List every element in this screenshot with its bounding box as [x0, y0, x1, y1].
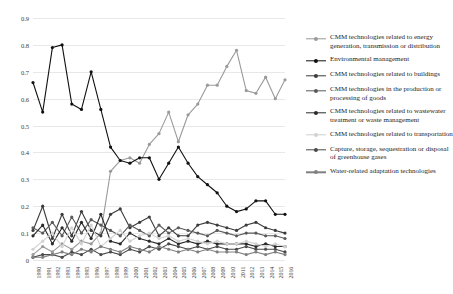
legend-label: CMM technologies related to buildings [330, 70, 440, 79]
series-point [60, 256, 63, 259]
series-point [245, 207, 248, 210]
series-point [80, 210, 83, 213]
x-axis-tick-label: 2005 [181, 267, 187, 279]
series-point [138, 156, 141, 159]
series-point [41, 223, 44, 226]
series-point [90, 229, 93, 232]
series-point [283, 78, 286, 81]
series-point [274, 234, 277, 237]
series-point [51, 237, 54, 240]
legend-label: CMM technologies related to energy gener… [330, 33, 453, 50]
series-point [177, 140, 180, 143]
legend-item[interactable]: Capture, storage, sequestration or dispo… [306, 145, 453, 162]
x-axis-tick-label: 2013 [259, 267, 265, 279]
series-point [90, 237, 93, 240]
legend-label: Environmental management [330, 55, 409, 64]
legend-item[interactable]: CMM technologies related to wastewater t… [306, 107, 453, 124]
series-line [33, 45, 285, 214]
legend-label: CMM technologies related to wastewater t… [330, 107, 453, 124]
series-point [119, 229, 122, 232]
series-point [254, 250, 257, 253]
series-point [216, 84, 219, 87]
chart-series [31, 205, 286, 240]
series-point [148, 240, 151, 243]
x-axis-tick-label: 2000 [133, 267, 139, 279]
series-point [196, 102, 199, 105]
x-axis-tick-label: 1996 [94, 267, 100, 279]
series-point [119, 234, 122, 237]
series-point [283, 213, 286, 216]
series-point [264, 199, 267, 202]
legend-item[interactable]: CMM technologies related to buildings [306, 70, 453, 80]
series-point [235, 229, 238, 232]
series-point [128, 162, 131, 165]
series-point [31, 234, 34, 237]
series-point [90, 242, 93, 245]
series-point [216, 245, 219, 248]
series-point [264, 253, 267, 256]
series-point [119, 207, 122, 210]
series-point [177, 250, 180, 253]
x-axis-tick-label: 1992 [55, 267, 61, 279]
legend-marker-icon [306, 168, 326, 177]
y-axis-tick-label: 0.4 [21, 149, 29, 156]
x-axis-tick-label: 2007 [201, 267, 207, 279]
series-point [109, 170, 112, 173]
legend-item[interactable]: CMM technologies in the production or pr… [306, 85, 453, 102]
series-point [157, 223, 160, 226]
series-point [51, 253, 54, 256]
series-point [138, 221, 141, 224]
legend-item[interactable]: Water-related adaptation technologies [306, 167, 453, 177]
legend-marker-icon [306, 131, 326, 140]
series-point [31, 226, 34, 229]
legend-item[interactable]: CMM technologies related to energy gener… [306, 33, 453, 50]
series-point [216, 229, 219, 232]
series-point [109, 145, 112, 148]
x-axis-tick-label: 2006 [191, 267, 197, 279]
series-point [206, 183, 209, 186]
legend-item[interactable]: CMM technologies related to transportati… [306, 130, 453, 140]
x-axis-tick-label: 1993 [65, 267, 71, 279]
series-point [148, 232, 151, 235]
chart-legend: CMM technologies related to energy gener… [306, 33, 453, 182]
legend-label: CMM technologies in the production or pr… [330, 85, 453, 102]
series-point [60, 245, 63, 248]
series-point [186, 248, 189, 251]
series-point [157, 245, 160, 248]
series-point [254, 199, 257, 202]
line-chart: 00.10.20.30.40.50.60.70.80.9 19901991199… [0, 0, 453, 294]
series-point [119, 242, 122, 245]
series-point [245, 89, 248, 92]
x-axis-tick-label: 2010 [230, 267, 236, 279]
series-point [70, 102, 73, 105]
series-point [245, 240, 248, 243]
series-lines [33, 18, 285, 260]
series-point [119, 159, 122, 162]
series-point [128, 240, 131, 243]
series-point [254, 92, 257, 95]
series-point [206, 242, 209, 245]
x-axis-tick-label: 1998 [113, 267, 119, 279]
legend-marker-icon [306, 56, 326, 65]
legend-label: Water-related adaptation technologies [330, 167, 436, 176]
series-point [138, 229, 141, 232]
series-point [31, 248, 34, 251]
series-point [235, 242, 238, 245]
series-point [128, 156, 131, 159]
series-point [206, 248, 209, 251]
series-point [245, 253, 248, 256]
series-point [274, 229, 277, 232]
series-point [167, 242, 170, 245]
series-point [128, 223, 131, 226]
series-point [264, 248, 267, 251]
series-point [119, 250, 122, 253]
series-point [90, 223, 93, 226]
series-point [225, 65, 228, 68]
x-axis-tick-label: 2004 [171, 267, 177, 279]
series-point [157, 132, 160, 135]
series-point [177, 145, 180, 148]
legend-item[interactable]: Environmental management [306, 55, 453, 65]
series-point [41, 245, 44, 248]
legend-marker-icon [306, 34, 326, 43]
series-point [80, 108, 83, 111]
